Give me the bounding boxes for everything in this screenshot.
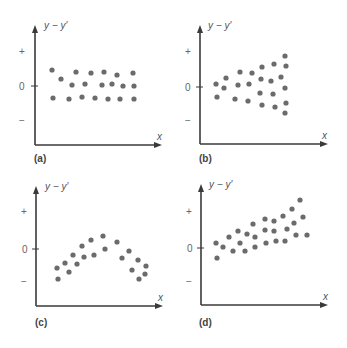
data-point [235, 82, 240, 87]
data-point [74, 261, 79, 266]
data-point [262, 227, 267, 232]
x-arrow-icon [320, 302, 328, 308]
data-point [105, 96, 110, 101]
data-point [62, 260, 67, 265]
plus-sign: + [186, 206, 192, 217]
data-point [142, 271, 147, 276]
data-point [300, 214, 305, 219]
data-point [257, 90, 262, 95]
x-arrow-icon [155, 303, 163, 309]
data-point [272, 104, 277, 109]
data-point [58, 76, 63, 81]
data-point [237, 240, 242, 245]
data-point [284, 226, 289, 231]
minus-sign: − [185, 115, 191, 126]
data-point [131, 96, 136, 101]
data-point [223, 75, 228, 80]
data-point [291, 220, 296, 225]
data-point [271, 61, 276, 66]
data-point [244, 231, 249, 236]
data-point [221, 85, 226, 90]
data-point [232, 96, 237, 101]
data-point [136, 276, 141, 281]
data-point [119, 255, 124, 260]
data-point [82, 81, 87, 86]
data-point [130, 70, 135, 75]
data-point [143, 263, 148, 268]
x-arrow-icon [154, 142, 162, 148]
data-point [135, 257, 140, 262]
x-axis-label: x [322, 291, 329, 302]
panel-label: (b) [199, 153, 212, 164]
data-point [114, 239, 119, 244]
data-point [237, 69, 242, 74]
data-point [262, 216, 267, 221]
zero-label: 0 [19, 81, 25, 92]
data-point [109, 81, 114, 86]
y-arrow-icon [197, 25, 203, 33]
data-point [273, 238, 278, 243]
residual-points [213, 197, 309, 260]
data-point [271, 218, 276, 223]
data-point [252, 244, 257, 249]
data-point [242, 248, 247, 253]
residual-points [54, 233, 148, 281]
minus-sign: − [21, 276, 27, 287]
data-point [297, 197, 302, 202]
residual-points [49, 67, 136, 101]
data-point [114, 72, 119, 77]
data-point [250, 221, 255, 226]
plus-sign: + [185, 46, 191, 57]
data-point [99, 82, 104, 87]
plus-sign: + [19, 46, 25, 57]
data-point [263, 240, 268, 245]
data-point [282, 53, 287, 58]
data-point [271, 228, 276, 233]
data-point [283, 63, 288, 68]
y-axis-label: y − y′ [44, 181, 69, 192]
data-point [129, 267, 134, 272]
panel-label: (a) [34, 153, 46, 164]
y-arrow-icon [32, 25, 38, 33]
x-axis-label: x [157, 292, 164, 303]
residual-plots-figure: y − y′ x + 0 − (a) y − y′ x + 0 − (b) y … [0, 0, 347, 348]
data-point [101, 69, 106, 74]
data-point [92, 95, 97, 100]
data-point [102, 246, 107, 251]
data-point [66, 269, 71, 274]
data-point [117, 96, 122, 101]
data-point [79, 94, 84, 99]
data-point [289, 206, 294, 211]
x-axis-label: x [321, 130, 328, 141]
data-point [88, 237, 93, 242]
data-point [258, 76, 263, 81]
data-point [213, 81, 218, 86]
data-point [69, 82, 74, 87]
data-point [66, 96, 71, 101]
data-point [246, 81, 251, 86]
data-point [249, 70, 254, 75]
y-axis-label: y − y′ [43, 20, 68, 31]
y-arrow-icon [33, 186, 39, 194]
data-point [282, 85, 287, 90]
panel-b: y − y′ x + 0 − (b) [185, 20, 328, 164]
axes [197, 184, 328, 308]
plus-sign: + [21, 206, 27, 217]
data-point [252, 234, 257, 239]
data-point [81, 254, 86, 259]
data-point [131, 83, 136, 88]
minus-sign: − [19, 115, 25, 126]
data-point [259, 102, 264, 107]
axes [31, 25, 162, 148]
panel-a: y − y′ x + 0 − (a) [19, 20, 163, 164]
minus-sign: − [186, 276, 192, 287]
zero-label: 0 [187, 243, 193, 254]
x-axis-label: x [156, 131, 163, 142]
data-point [213, 240, 218, 245]
y-axis-label: y − y′ [208, 179, 233, 190]
axes [32, 186, 163, 309]
data-point [88, 70, 93, 75]
data-point [259, 64, 264, 69]
data-point [293, 232, 298, 237]
x-arrow-icon [320, 141, 328, 147]
